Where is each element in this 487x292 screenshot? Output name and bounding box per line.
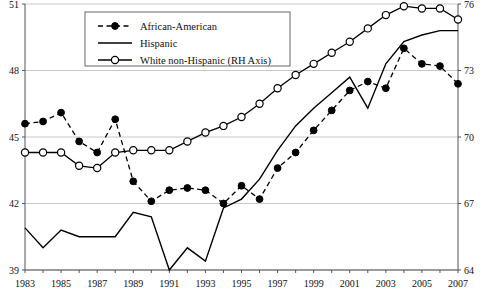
series-marker-0	[256, 196, 263, 203]
x-axis-tick-label: 2003	[376, 278, 396, 289]
y-axis-right-tick-label: 76	[464, 0, 474, 10]
series-marker-2	[256, 100, 263, 107]
x-axis-tick-label: 1997	[268, 278, 288, 289]
series-marker-0	[112, 116, 119, 123]
x-axis-tick-label: 1989	[123, 278, 143, 289]
y-axis-right-tick-label: 64	[464, 265, 474, 276]
x-axis-tick-label: 1999	[304, 278, 324, 289]
y-axis-left-tick-label: 39	[9, 265, 19, 276]
chart-container: 3942454851646770737619831985198719891991…	[0, 0, 487, 292]
y-axis-right-tick-label: 67	[464, 198, 474, 209]
series-marker-0	[184, 185, 191, 192]
series-marker-2	[220, 122, 227, 129]
series-marker-2	[364, 25, 371, 32]
series-marker-0	[437, 63, 444, 70]
x-axis-tick-label: 2005	[412, 278, 432, 289]
series-marker-2	[418, 5, 425, 12]
series-marker-2	[328, 49, 335, 56]
series-marker-2	[310, 60, 317, 67]
series-marker-0	[382, 85, 389, 92]
series-marker-0	[76, 138, 83, 145]
series-marker-2	[94, 164, 101, 171]
series-marker-0	[328, 107, 335, 114]
legend-label-0: African-American	[140, 21, 218, 32]
series-marker-0	[274, 165, 281, 172]
series-marker-0	[22, 120, 29, 127]
series-marker-2	[184, 138, 191, 145]
series-marker-2	[148, 147, 155, 154]
y-axis-right-tick-label: 73	[464, 65, 474, 76]
series-marker-2	[454, 16, 461, 23]
x-axis-tick-label: 1983	[15, 278, 35, 289]
series-marker-2	[21, 149, 28, 156]
series-marker-2	[346, 38, 353, 45]
line-chart: 3942454851646770737619831985198719891991…	[0, 0, 487, 292]
series-marker-0	[148, 198, 155, 205]
series-line-0	[25, 48, 458, 203]
series-marker-0	[455, 80, 462, 87]
x-axis-tick-label: 1991	[159, 278, 179, 289]
series-marker-2	[400, 3, 407, 10]
series-marker-0	[40, 118, 47, 125]
series-marker-2	[382, 11, 389, 18]
series-marker-0	[220, 200, 227, 207]
y-axis-left-tick-label: 48	[9, 65, 19, 76]
series-marker-2	[238, 113, 245, 120]
series-marker-2	[436, 5, 443, 12]
legend-label-2: White non-Hispanic (RH Axis)	[140, 55, 271, 67]
x-axis-tick-label: 2001	[340, 278, 360, 289]
x-axis-tick-label: 1993	[195, 278, 215, 289]
series-marker-2	[39, 149, 46, 156]
x-axis-tick-label: 1987	[87, 278, 107, 289]
series-marker-2	[166, 147, 173, 154]
series-marker-0	[346, 87, 353, 94]
series-marker-2	[112, 149, 119, 156]
series-marker-0	[292, 149, 299, 156]
series-marker-0	[238, 182, 245, 189]
series-marker-0	[364, 78, 371, 85]
series-marker-2	[130, 147, 137, 154]
series-marker-2	[202, 129, 209, 136]
series-marker-0	[400, 45, 407, 52]
series-marker-2	[57, 149, 64, 156]
legend-label-1: Hispanic	[140, 38, 178, 49]
y-axis-left-tick-label: 51	[9, 0, 19, 10]
series-marker-0	[419, 60, 426, 67]
series-marker-2	[292, 71, 299, 78]
y-axis-left-tick-label: 42	[9, 198, 19, 209]
legend-marker-2	[111, 56, 118, 63]
series-marker-0	[94, 149, 101, 156]
series-marker-0	[58, 109, 65, 116]
legend-marker-0	[112, 23, 119, 30]
series-marker-0	[166, 187, 173, 194]
series-marker-0	[310, 127, 317, 134]
x-axis-tick-label: 1985	[51, 278, 71, 289]
y-axis-right-tick-label: 70	[464, 132, 474, 143]
y-axis-left-tick-label: 45	[9, 132, 19, 143]
series-marker-2	[76, 162, 83, 169]
series-line-1	[25, 31, 458, 270]
x-axis-tick-label: 2007	[448, 278, 468, 289]
series-marker-2	[274, 85, 281, 92]
x-axis-tick-label: 1995	[232, 278, 252, 289]
series-marker-0	[130, 178, 137, 185]
series-marker-0	[202, 187, 209, 194]
